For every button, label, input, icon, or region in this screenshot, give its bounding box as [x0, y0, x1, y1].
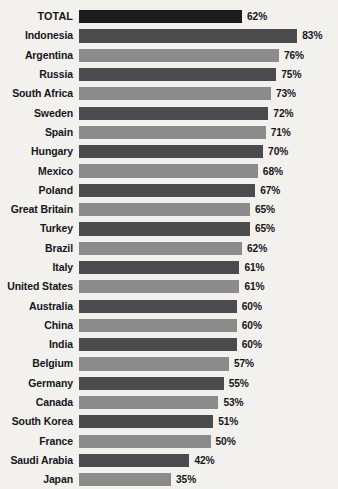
bar-fill	[79, 319, 237, 332]
bar-row: TOTAL62%	[0, 7, 338, 26]
bar-fill	[79, 184, 255, 197]
bar-category-label: Australia	[0, 301, 73, 312]
bar-row: Saudi Arabia42%	[0, 451, 338, 470]
bar-track: 51%	[79, 412, 338, 431]
bar-value-label: 68%	[263, 166, 283, 177]
bar-row: South Africa73%	[0, 84, 338, 103]
bar-track: 50%	[79, 432, 338, 451]
bar-category-label: Belgium	[0, 358, 73, 369]
bar-value-label: 57%	[234, 358, 254, 369]
bar-category-label: TOTAL	[0, 11, 73, 22]
bar-row: Hungary70%	[0, 142, 338, 161]
bar-fill	[79, 357, 229, 370]
bar-category-label: United States	[0, 281, 73, 292]
bar-category-label: South Korea	[0, 416, 73, 427]
bar-row: Spain71%	[0, 123, 338, 142]
bar-track: 73%	[79, 84, 338, 103]
bar-fill	[79, 68, 276, 81]
bar-row: India60%	[0, 335, 338, 354]
bar-row: Brazil62%	[0, 239, 338, 258]
bar-category-label: Hungary	[0, 146, 73, 157]
bar-category-label: Spain	[0, 127, 73, 138]
bar-fill	[79, 280, 239, 293]
bar-value-label: 65%	[255, 223, 275, 234]
bar-category-label: China	[0, 320, 73, 331]
bar-row: Poland67%	[0, 181, 338, 200]
bar-row: Italy61%	[0, 258, 338, 277]
bar-track: 72%	[79, 103, 338, 122]
bar-fill	[79, 10, 242, 23]
bar-category-label: Argentina	[0, 50, 73, 61]
bar-chart: TOTAL62%Indonesia83%Argentina76%Russia75…	[0, 0, 338, 489]
bar-category-label: Sweden	[0, 108, 73, 119]
bar-value-label: 42%	[194, 455, 214, 466]
bar-value-label: 62%	[247, 11, 267, 22]
bar-track: 53%	[79, 393, 338, 412]
bar-value-label: 61%	[244, 281, 264, 292]
bar-track: 68%	[79, 161, 338, 180]
bar-category-label: Canada	[0, 397, 73, 408]
bar-track: 60%	[79, 296, 338, 315]
bar-category-label: India	[0, 339, 73, 350]
bar-fill	[79, 435, 211, 448]
bar-row: South Korea51%	[0, 412, 338, 431]
source-note	[8, 482, 188, 489]
bar-value-label: 75%	[281, 69, 301, 80]
bar-fill	[79, 87, 271, 100]
bar-value-label: 50%	[216, 436, 236, 447]
bar-row: China60%	[0, 316, 338, 335]
bar-row: Belgium57%	[0, 354, 338, 373]
bar-row: Turkey65%	[0, 219, 338, 238]
bar-row: Russia75%	[0, 65, 338, 84]
bar-value-label: 61%	[244, 262, 264, 273]
bar-row: Mexico68%	[0, 161, 338, 180]
bar-value-label: 76%	[284, 50, 304, 61]
bar-track: 70%	[79, 142, 338, 161]
bar-track: 65%	[79, 200, 338, 219]
bar-category-label: South Africa	[0, 88, 73, 99]
bar-rows-container: TOTAL62%Indonesia83%Argentina76%Russia75…	[0, 7, 338, 489]
bar-row: Sweden72%	[0, 103, 338, 122]
bar-row: Germany55%	[0, 374, 338, 393]
bar-track: 60%	[79, 335, 338, 354]
bar-track: 57%	[79, 354, 338, 373]
bar-row: United States61%	[0, 277, 338, 296]
bar-category-label: Saudi Arabia	[0, 455, 73, 466]
bar-fill	[79, 242, 242, 255]
bar-category-label: Germany	[0, 378, 73, 389]
bar-track: 55%	[79, 374, 338, 393]
bar-fill	[79, 454, 189, 467]
bar-fill	[79, 145, 263, 158]
bar-fill	[79, 396, 218, 409]
bar-fill	[79, 107, 268, 120]
bar-fill	[79, 338, 237, 351]
bar-category-label: Italy	[0, 262, 73, 273]
bar-track: 61%	[79, 258, 338, 277]
bar-track: 61%	[79, 277, 338, 296]
bar-category-label: Mexico	[0, 166, 73, 177]
bar-value-label: 71%	[271, 127, 291, 138]
bar-category-label: Indonesia	[0, 30, 73, 41]
bar-track: 65%	[79, 219, 338, 238]
bar-fill	[79, 203, 250, 216]
bar-track: 62%	[79, 239, 338, 258]
bar-category-label: Russia	[0, 69, 73, 80]
bar-value-label: 53%	[223, 397, 243, 408]
bar-track: 75%	[79, 65, 338, 84]
bar-row: Indonesia83%	[0, 26, 338, 45]
bar-value-label: 65%	[255, 204, 275, 215]
bar-fill	[79, 29, 297, 42]
bar-value-label: 60%	[242, 339, 262, 350]
bar-value-label: 60%	[242, 320, 262, 331]
bar-row: Argentina76%	[0, 46, 338, 65]
bar-fill	[79, 49, 279, 62]
bar-value-label: 67%	[260, 185, 280, 196]
bar-fill	[79, 261, 239, 274]
bar-fill	[79, 222, 250, 235]
bar-row: Australia60%	[0, 296, 338, 315]
bar-category-label: Great Britain	[0, 204, 73, 215]
bar-track: 83%	[79, 26, 338, 45]
bar-value-label: 83%	[302, 30, 322, 41]
bar-track: 67%	[79, 181, 338, 200]
bar-fill	[79, 300, 237, 313]
